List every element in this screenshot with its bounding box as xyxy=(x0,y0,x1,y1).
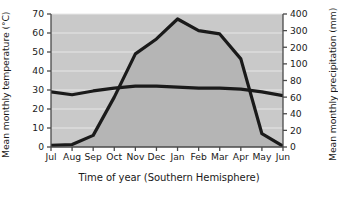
climate-chart: Mean monthly temperature (°C) Mean month… xyxy=(0,0,338,197)
plot-area xyxy=(0,0,338,197)
